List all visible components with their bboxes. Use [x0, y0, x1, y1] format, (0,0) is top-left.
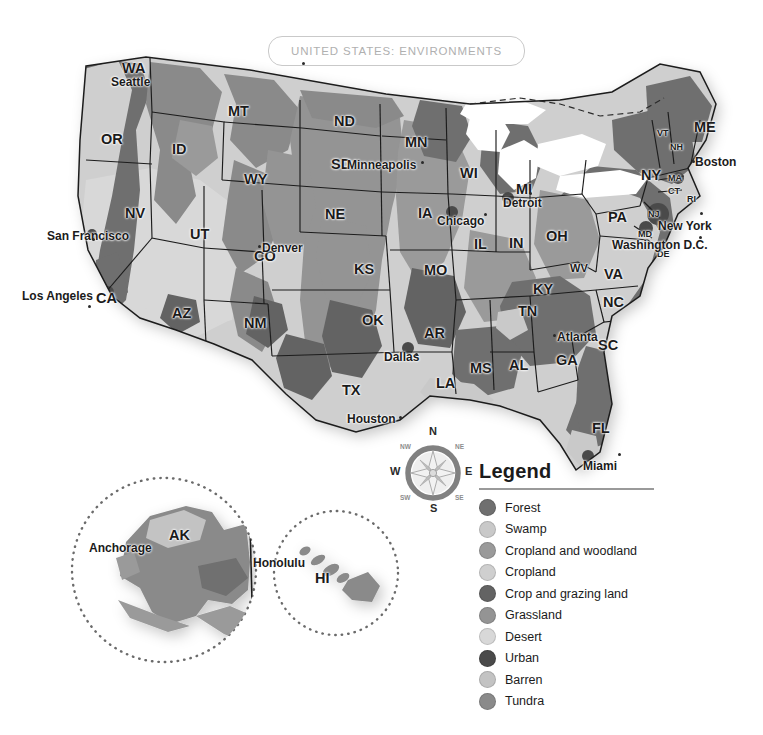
legend-divider [479, 488, 654, 490]
legend-item-label: Desert [505, 630, 542, 644]
city-marker-dot [553, 334, 556, 337]
city-marker-dot [529, 192, 532, 195]
legend-item: Swamp [479, 519, 694, 541]
city-marker-dot [399, 416, 402, 419]
legend-swatch-icon [479, 585, 496, 602]
city-marker-dot [88, 305, 91, 308]
legend-item: Cropland [479, 562, 694, 584]
legend-item-label: Cropland and woodland [505, 544, 637, 558]
legend-swatch-icon [479, 521, 496, 538]
compass-south-label: S [430, 502, 437, 514]
compass-northeast-label: NE [455, 443, 464, 450]
compass-southeast-label: SE [455, 494, 464, 501]
city-marker-dot [700, 212, 703, 215]
city-marker-dot [92, 238, 95, 241]
legend-item: Crop and grazing land [479, 583, 694, 605]
legend-item-label: Barren [505, 673, 543, 687]
city-marker-dot [699, 236, 702, 239]
legend-item-label: Urban [505, 651, 539, 665]
legend-swatch-icon [479, 671, 496, 688]
legend-item: Forest [479, 497, 694, 519]
compass-west-label: W [390, 465, 400, 477]
legend-swatch-icon [479, 564, 496, 581]
legend-swatch-icon [479, 693, 496, 710]
legend-item-label: Grassland [505, 608, 562, 622]
city-marker-dot [302, 62, 305, 65]
compass-northwest-label: NW [400, 443, 411, 450]
city-marker-dot [484, 213, 487, 216]
legend-item: Desert [479, 626, 694, 648]
city-marker-dot [618, 453, 621, 456]
compass-rose: N S E W NW NE SW SE [389, 429, 477, 517]
legend-swatch-icon [479, 650, 496, 667]
legend-item: Cropland and woodland [479, 540, 694, 562]
compass-north-label: N [429, 425, 437, 437]
legend-item-label: Tundra [505, 694, 544, 708]
legend-item-label: Forest [505, 501, 540, 515]
city-marker-dot [692, 160, 695, 163]
page-title: UNITED STATES: ENVIRONMENTS [291, 45, 502, 57]
legend-item: Grassland [479, 605, 694, 627]
legend-item-label: Crop and grazing land [505, 587, 628, 601]
legend-item-label: Cropland [505, 565, 556, 579]
legend: Legend ForestSwampCropland and woodlandC… [479, 460, 694, 712]
legend-swatch-icon [479, 607, 496, 624]
legend-swatch-icon [479, 628, 496, 645]
legend-item: Urban [479, 648, 694, 670]
compass-southwest-label: SW [400, 494, 410, 501]
compass-east-label: E [465, 465, 472, 477]
legend-item-label: Swamp [505, 522, 547, 536]
city-marker-dot [258, 245, 261, 248]
legend-items: ForestSwampCropland and woodlandCropland… [479, 497, 694, 712]
legend-heading: Legend [479, 460, 694, 483]
legend-item: Tundra [479, 691, 694, 713]
city-marker-dot [415, 353, 418, 356]
map-title-pill: UNITED STATES: ENVIRONMENTS [268, 36, 525, 66]
legend-item: Barren [479, 669, 694, 691]
legend-swatch-icon [479, 499, 496, 516]
map-page: UNITED STATES: ENVIRONMENTS WAORIDMTWYNV… [0, 0, 763, 735]
city-marker-dot [421, 161, 424, 164]
legend-swatch-icon [479, 542, 496, 559]
